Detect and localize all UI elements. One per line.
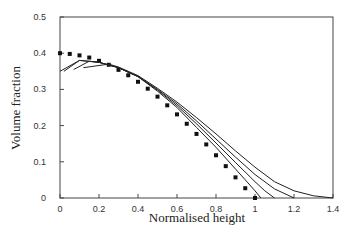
data-point bbox=[126, 73, 130, 77]
data-point bbox=[165, 103, 169, 107]
y-tick-label: 0.2 bbox=[33, 121, 46, 131]
data-point bbox=[234, 175, 238, 179]
data-point bbox=[243, 186, 247, 190]
series-line-1 bbox=[60, 60, 261, 198]
data-point bbox=[195, 132, 199, 136]
data-point bbox=[253, 196, 257, 200]
x-tick-label: 1.4 bbox=[327, 204, 340, 214]
data-point bbox=[58, 51, 62, 55]
x-tick-label: 1 bbox=[252, 204, 257, 214]
data-point bbox=[224, 164, 228, 168]
series-markers bbox=[58, 51, 257, 200]
y-axis-label: Volume fraction bbox=[8, 66, 23, 150]
data-point bbox=[78, 53, 82, 57]
y-tick-label: 0.3 bbox=[33, 84, 46, 94]
data-point bbox=[175, 112, 179, 116]
plot-frame bbox=[60, 17, 333, 198]
x-tick-label: 1.2 bbox=[288, 204, 301, 214]
series-line-4 bbox=[83, 64, 333, 198]
data-point bbox=[185, 122, 189, 126]
y-tick-label: 0.5 bbox=[33, 12, 46, 22]
line-chart: 00.10.20.30.40.5 00.20.40.60.811.21.4 No… bbox=[0, 0, 356, 238]
data-point bbox=[146, 87, 150, 91]
series-layer bbox=[58, 51, 333, 200]
plot-border bbox=[60, 17, 333, 198]
y-tick-label: 0.1 bbox=[33, 157, 46, 167]
x-axis-label: Normalised height bbox=[149, 210, 246, 225]
data-point bbox=[156, 95, 160, 99]
x-tick-label: 0 bbox=[57, 204, 62, 214]
x-tick-label: 0.2 bbox=[93, 204, 106, 214]
y-axis-ticks: 00.10.20.30.40.5 bbox=[33, 12, 64, 203]
data-point bbox=[204, 142, 208, 146]
data-point bbox=[87, 56, 91, 60]
data-point bbox=[136, 80, 140, 84]
y-tick-label: 0 bbox=[41, 193, 46, 203]
data-point bbox=[68, 52, 72, 56]
x-tick-label: 0.4 bbox=[132, 204, 145, 214]
y-tick-label: 0.4 bbox=[33, 48, 46, 58]
data-point bbox=[214, 153, 218, 157]
series-line-3 bbox=[74, 61, 294, 198]
